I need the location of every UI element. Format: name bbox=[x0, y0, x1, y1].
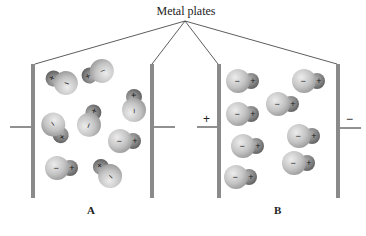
dipole-molecule-b-8: −+ bbox=[224, 165, 257, 189]
positive-charge-glyph: + bbox=[290, 99, 295, 109]
dipole-molecule-b-2: −+ bbox=[292, 69, 325, 93]
dipole-molecule-b-6: −+ bbox=[231, 134, 264, 158]
dipole-molecule-a-5: −+ bbox=[74, 101, 108, 140]
negative-charge-glyph: − bbox=[290, 158, 295, 168]
dipole-molecule-b-4: −+ bbox=[226, 102, 259, 126]
dipole-molecule-b-1: −+ bbox=[226, 69, 259, 93]
dipole-molecule-a-6: −+ bbox=[108, 129, 141, 153]
positive-charge-glyph: + bbox=[306, 158, 311, 168]
plate-b-left-positive-sign: + bbox=[203, 112, 210, 126]
positive-charge-glyph: + bbox=[311, 131, 316, 141]
dipole-molecule-a-7: −+ bbox=[45, 156, 78, 180]
positive-charge-glyph: + bbox=[250, 76, 255, 86]
negative-charge-glyph: − bbox=[116, 136, 121, 146]
diagram-stage: Metal plates bbox=[0, 0, 366, 236]
plate-b-left bbox=[217, 64, 221, 198]
negative-charge-glyph: − bbox=[300, 76, 305, 86]
dipole-molecule-a-4: −+ bbox=[37, 108, 76, 149]
positive-charge-glyph: + bbox=[248, 172, 253, 182]
plate-a-left bbox=[31, 64, 35, 198]
dipole-molecule-b-3: −+ bbox=[266, 92, 299, 116]
positive-charge-glyph: + bbox=[129, 92, 139, 97]
negative-charge-glyph: − bbox=[129, 108, 139, 113]
positive-charge-glyph: + bbox=[255, 141, 260, 151]
negative-charge-glyph: − bbox=[274, 99, 279, 109]
dipole-molecule-a-8: −+ bbox=[87, 153, 127, 193]
negative-charge-glyph: − bbox=[234, 109, 239, 119]
positive-charge-glyph: + bbox=[69, 163, 74, 173]
negative-charge-glyph: − bbox=[232, 172, 237, 182]
negative-charge-glyph: − bbox=[53, 163, 58, 173]
plate-b-right-negative-sign: − bbox=[346, 112, 353, 126]
dipole-molecule-a-2: −+ bbox=[78, 56, 117, 90]
plate-a-right bbox=[150, 64, 154, 198]
plate-b-right bbox=[336, 64, 340, 198]
positive-charge-glyph: + bbox=[250, 109, 255, 119]
negative-charge-glyph: − bbox=[295, 131, 300, 141]
dipole-molecule-b-5: −+ bbox=[287, 124, 320, 148]
molecules: −+−+−+−+−+−+−+−+−+−+−+−+−+−+−+−+ bbox=[37, 56, 325, 193]
dipole-molecule-a-1: −+ bbox=[42, 65, 81, 99]
positive-charge-glyph: + bbox=[316, 76, 321, 86]
negative-charge-glyph: − bbox=[234, 76, 239, 86]
positive-charge-glyph: + bbox=[132, 136, 137, 146]
dipole-molecule-b-7: −+ bbox=[282, 151, 315, 175]
leader-lines bbox=[35, 21, 337, 64]
diagram-svg: −+−+−+−+−+−+−+−+−+−+−+−+−+−+−+−+ bbox=[0, 0, 366, 236]
negative-charge-glyph: − bbox=[239, 141, 244, 151]
panel-label-b: B bbox=[274, 204, 281, 216]
panel-label-a: A bbox=[87, 204, 95, 216]
dipole-molecule-a-3: −+ bbox=[122, 89, 146, 122]
